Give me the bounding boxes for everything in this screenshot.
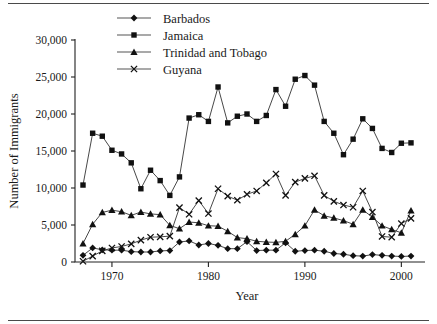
data-point-triangle (407, 207, 414, 213)
data-point-triangle (321, 212, 328, 218)
data-point-triangle (388, 226, 395, 232)
data-point-triangle (350, 221, 357, 227)
data-point-square (302, 73, 307, 78)
data-point-diamond (330, 250, 337, 257)
data-point-square (90, 131, 95, 136)
data-point-square (131, 32, 136, 37)
data-point-diamond (234, 245, 241, 252)
data-point-square (100, 134, 105, 139)
data-point-x (244, 191, 250, 197)
data-point-square (399, 141, 404, 146)
data-point-x (311, 173, 317, 179)
data-point-x (408, 215, 414, 221)
data-point-square (273, 87, 278, 92)
x-tick-label: 1980 (197, 270, 220, 282)
data-point-square (186, 115, 191, 120)
data-point-x (254, 188, 260, 194)
data-point-triangle (398, 229, 405, 235)
data-point-x (302, 175, 308, 181)
data-point-diamond (128, 248, 135, 255)
data-point-triangle (79, 240, 86, 246)
data-point-square (138, 186, 143, 191)
data-point-triangle (186, 218, 193, 224)
data-point-square (264, 113, 269, 118)
y-tick-label: 10,000 (35, 182, 67, 195)
legend-item-label: Trinidad and Tobago (163, 46, 267, 60)
data-point-square (312, 82, 317, 87)
legend-item-label: Guyana (163, 63, 202, 77)
data-point-square (167, 193, 172, 198)
data-point-triangle (359, 206, 366, 212)
data-point-diamond (350, 252, 357, 259)
x-axis-title: Year (235, 289, 259, 303)
data-point-square (283, 104, 288, 109)
data-point-x (350, 204, 356, 210)
data-point-square (80, 182, 85, 187)
data-point-square (148, 168, 153, 173)
data-point-x (321, 192, 327, 198)
data-point-square (293, 77, 298, 82)
y-tick-label: 20,000 (35, 108, 67, 121)
data-point-x (215, 186, 221, 192)
data-point-x (273, 171, 279, 177)
data-point-x (282, 192, 288, 198)
data-point-square (235, 114, 240, 119)
data-point-triangle (108, 207, 115, 213)
data-point-square (254, 119, 259, 124)
data-point-square (225, 120, 230, 125)
y-tick-label: 30,000 (35, 34, 67, 47)
data-point-diamond (408, 253, 415, 260)
data-point-diamond (398, 253, 405, 260)
data-point-square (177, 174, 182, 179)
data-point-square (129, 160, 134, 165)
data-point-diamond (186, 238, 193, 245)
data-point-x (340, 202, 346, 208)
data-point-diamond (118, 247, 125, 254)
data-point-triangle (282, 238, 289, 244)
y-tick-label: 0 (61, 256, 67, 268)
data-point-square (341, 152, 346, 157)
legend: BarbadosJamaicaTrinidad and TobagoGuyana (117, 12, 267, 77)
data-point-square (215, 84, 220, 89)
data-point-square (206, 119, 211, 124)
data-point-diamond (215, 242, 222, 249)
data-point-diamond (137, 249, 144, 256)
data-point-triangle (311, 206, 318, 212)
data-point-square (109, 148, 114, 153)
data-point-diamond (224, 245, 231, 252)
data-point-diamond (263, 247, 270, 254)
data-point-square (157, 178, 162, 183)
data-point-diamond (157, 248, 164, 255)
data-point-triangle (137, 208, 144, 214)
y-tick-label: 25,000 (35, 71, 67, 84)
x-tick-label: 1970 (100, 270, 123, 282)
legend-item-label: Barbados (163, 12, 210, 26)
data-point-x (292, 179, 298, 185)
data-point-square (370, 126, 375, 131)
legend-item-label: Jamaica (163, 29, 204, 43)
data-point-diamond (131, 15, 138, 22)
data-point-diamond (301, 247, 308, 254)
data-point-triangle (301, 222, 308, 228)
data-point-x (196, 197, 202, 203)
data-point-square (360, 116, 365, 121)
data-point-square (244, 111, 249, 116)
series-trinidad-and-tobago (79, 206, 414, 246)
data-point-diamond (147, 249, 154, 256)
data-point-x (186, 211, 192, 217)
data-point-x (225, 193, 231, 199)
data-point-diamond (369, 251, 376, 258)
data-point-x (128, 241, 134, 247)
data-point-x (360, 188, 366, 194)
data-point-square (408, 140, 413, 145)
data-point-triangle (234, 234, 241, 240)
y-tick-label: 15,000 (35, 145, 67, 158)
line-chart-canvas: 05,00010,00015,00020,00025,00030,0001970… (0, 0, 437, 324)
data-point-diamond (311, 247, 318, 254)
chart-figure: 05,00010,00015,00020,00025,00030,0001970… (0, 0, 437, 324)
data-point-diamond (379, 252, 386, 259)
data-point-square (119, 151, 124, 156)
data-point-x (263, 180, 269, 186)
data-point-square (321, 119, 326, 124)
data-point-square (389, 150, 394, 155)
